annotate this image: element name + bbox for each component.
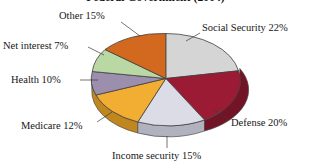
leader-line-other [121, 22, 140, 36]
leader-line-net-interest [88, 47, 104, 55]
pie-label-social-security: Social Security 22% [202, 22, 288, 33]
pie-label-income-security: Income security 15% [112, 150, 201, 161]
pie-chart-figure: Federal Government (2004) [0, 0, 311, 165]
pie-label-medicare: Medicare 12% [21, 120, 83, 131]
pie-label-other: Other 15% [59, 10, 105, 21]
pie-label-net-interest: Net interest 7% [3, 40, 68, 51]
pie-label-defense: Defense 20% [231, 117, 287, 128]
pie-label-health: Health 10% [11, 74, 61, 85]
